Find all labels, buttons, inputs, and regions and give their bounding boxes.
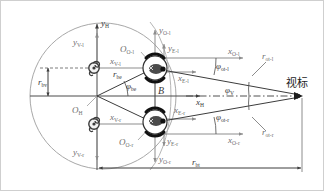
label-o-o-r: OO-r — [119, 138, 133, 147]
label-y-v-r: yV-r — [73, 148, 84, 157]
label-y-v-l: yV-l — [73, 38, 84, 47]
label-x-h: xH — [196, 98, 204, 107]
label-r-ot-r: rot-r — [262, 128, 274, 137]
right-eyeball — [143, 108, 167, 136]
label-b: B — [158, 86, 164, 96]
label-x-v-l: xV-l — [110, 57, 121, 66]
label-y-h: yH — [101, 19, 109, 28]
label-r-be: rbe — [113, 70, 122, 79]
left-eyeball — [143, 54, 167, 82]
label-r-ot-l: rot-l — [262, 52, 273, 61]
label-o-o-l: OO-l — [120, 45, 134, 54]
label-y-o-l: yO-l — [159, 26, 170, 35]
label-phi-ot-l: φot-l — [216, 62, 229, 71]
label-r-bv: rbv — [38, 78, 47, 87]
label-x-o-r: xO-r — [228, 136, 240, 145]
label-x-o-l: xO-l — [228, 47, 239, 56]
label-y-e-r: yE-r — [167, 137, 178, 146]
label-r-bt: rbt — [192, 158, 200, 167]
label-phi-be: φbe — [126, 82, 136, 91]
label-phi-ot-r: φot-r — [216, 113, 229, 122]
label-x-v-r: xV-r — [110, 113, 121, 122]
diagram-canvas: yH xH OH yV-l xV-l yV-r xV-r OO-l yO-l x… — [0, 0, 324, 191]
label-o-h: OH — [72, 106, 83, 115]
label-visual-target: 视标 — [286, 78, 308, 89]
label-x-e-r: xE-r — [174, 106, 185, 115]
label-x-e-l: xE-l — [178, 74, 189, 83]
label-y-o-r: yO-r — [159, 155, 171, 164]
label-y-e-l: yE-l — [168, 44, 179, 53]
label-phi-v: φV — [225, 86, 234, 95]
